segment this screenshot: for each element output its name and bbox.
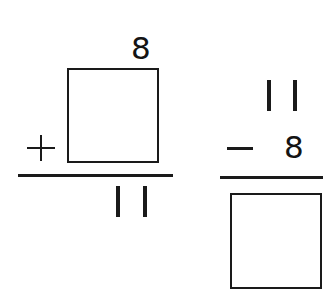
minuend-value: 11	[267, 80, 301, 111]
minus-sign-icon	[227, 147, 253, 150]
missing-addend-box[interactable]	[67, 68, 159, 163]
plus-sign-icon	[27, 135, 55, 161]
addend-top: 8	[131, 33, 151, 64]
subtrahend: 8	[284, 132, 304, 163]
addition-answer-rule	[18, 174, 173, 177]
subtraction-answer-rule	[220, 176, 323, 179]
missing-difference-box[interactable]	[230, 193, 322, 289]
sum-value: 11	[116, 186, 150, 217]
